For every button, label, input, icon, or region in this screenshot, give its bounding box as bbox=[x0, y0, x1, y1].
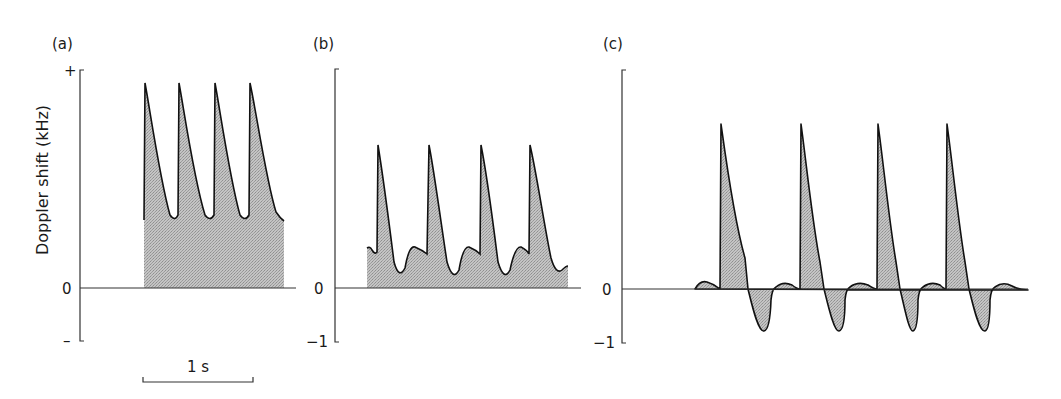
panel-c-label: (c) bbox=[603, 35, 623, 53]
y-axis-label: Doppler shift (kHz) bbox=[33, 105, 52, 255]
panel-a: (a) Doppler shift (kHz) + 0 – 1 s bbox=[33, 35, 296, 382]
time-scale-label: 1 s bbox=[187, 358, 209, 376]
doppler-figure: (a) Doppler shift (kHz) + 0 – 1 s (b) 0 … bbox=[0, 0, 1061, 399]
panel-c: (c) 0 −1 bbox=[593, 35, 1028, 352]
y-tick-plus: + bbox=[64, 62, 77, 80]
y-tick-zero-b: 0 bbox=[314, 280, 324, 298]
y-tick-zero-c: 0 bbox=[602, 281, 612, 299]
y-tick-minus-b: −1 bbox=[306, 333, 328, 351]
y-axis-b bbox=[335, 69, 339, 342]
y-axis bbox=[80, 70, 84, 341]
y-tick-minus: – bbox=[63, 332, 71, 350]
panel-b-label: (b) bbox=[313, 35, 334, 53]
waveform-b-fill bbox=[367, 145, 568, 288]
y-tick-minus-c: −1 bbox=[593, 334, 615, 352]
panel-a-label: (a) bbox=[52, 35, 73, 53]
y-tick-zero: 0 bbox=[62, 280, 72, 298]
y-axis-c bbox=[622, 70, 626, 343]
time-scale-bar bbox=[143, 377, 253, 382]
panel-b: (b) 0 −1 bbox=[306, 35, 581, 351]
waveform-c-fill bbox=[695, 124, 1028, 331]
